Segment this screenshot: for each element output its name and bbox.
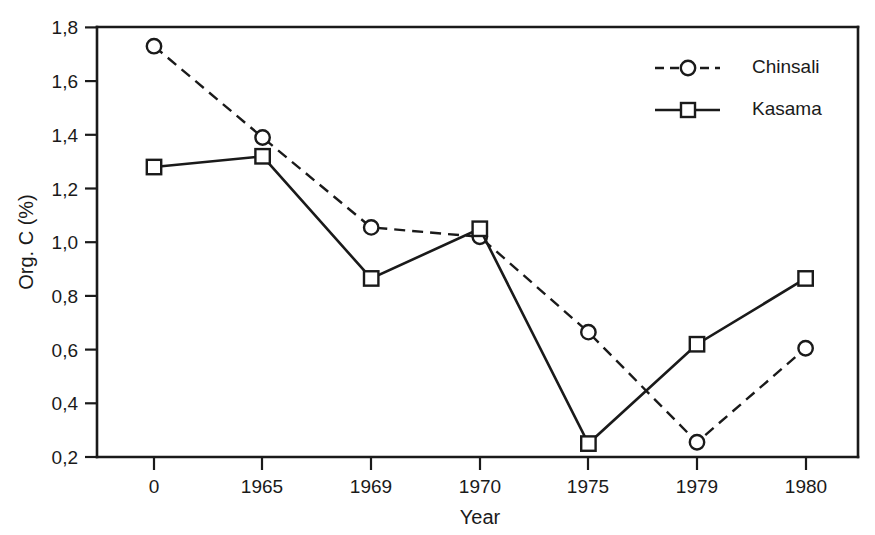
data-point-circle[interactable] <box>798 341 812 355</box>
legend-label-chinsali: Chinsali <box>752 56 820 77</box>
y-tick-group: 1,4 <box>52 125 97 146</box>
series-chinsali <box>147 39 813 449</box>
data-point-square[interactable] <box>473 222 487 236</box>
series-kasama <box>147 149 813 451</box>
data-point-square[interactable] <box>798 271 812 285</box>
y-tick-group: 1,0 <box>52 232 97 253</box>
chart-legend: Chinsali Kasama <box>612 38 858 130</box>
chart-figure: 0,2 0,4 0,6 0,8 1,0 1,2 <box>0 0 875 535</box>
data-point-square[interactable] <box>364 271 378 285</box>
data-point-circle[interactable] <box>255 130 269 144</box>
y-tick-label: 1,0 <box>52 232 78 253</box>
data-point-circle[interactable] <box>147 39 161 53</box>
y-tick-label: 1,4 <box>52 125 79 146</box>
data-point-circle[interactable] <box>581 325 595 339</box>
x-tick-group: 1979 <box>676 457 718 497</box>
data-point-square[interactable] <box>255 149 269 163</box>
x-tick-label: 1969 <box>350 476 392 497</box>
y-tick-group: 1,2 <box>52 179 97 200</box>
x-tick-label: 1970 <box>459 476 501 497</box>
x-tick-group: 1975 <box>567 457 609 497</box>
y-tick-group: 0,8 <box>52 286 97 307</box>
y-tick-group: 1,6 <box>52 71 97 92</box>
data-point-circle[interactable] <box>364 220 378 234</box>
data-point-circle[interactable] <box>690 435 704 449</box>
organic-carbon-line-chart: 0,2 0,4 0,6 0,8 1,0 1,2 <box>0 0 875 535</box>
x-tick-label: 0 <box>149 476 160 497</box>
legend-label-kasama: Kasama <box>752 98 822 119</box>
data-point-square[interactable] <box>147 160 161 174</box>
y-tick-group: 0,4 <box>52 393 97 414</box>
x-tick-group: 0 <box>149 457 160 497</box>
x-tick-group: 1965 <box>241 457 283 497</box>
y-tick-label: 0,6 <box>52 340 78 361</box>
y-tick-label: 1,2 <box>52 179 78 200</box>
data-point-square[interactable] <box>690 337 704 351</box>
x-tick-label: 1975 <box>567 476 609 497</box>
data-point-square[interactable] <box>581 436 595 450</box>
y-axis-title: Org. C (%) <box>15 194 37 290</box>
y-tick-label: 0,4 <box>52 393 79 414</box>
series-line <box>154 156 806 443</box>
x-tick-group: 1980 <box>785 457 827 497</box>
legend-entry-kasama[interactable]: Kasama <box>655 98 822 119</box>
series-layer <box>147 39 813 451</box>
y-tick-group: 0,6 <box>52 340 97 361</box>
x-tick-group: 1969 <box>350 457 392 497</box>
x-tick-label: 1980 <box>785 476 827 497</box>
y-tick-group: 0,2 <box>52 447 97 468</box>
y-tick-label: 0,8 <box>52 286 78 307</box>
x-tick-label: 1979 <box>676 476 718 497</box>
legend-marker-square <box>681 103 695 117</box>
x-axis-title: Year <box>460 506 501 528</box>
x-axis-ticks: 0 1965 1969 1970 1975 1979 <box>149 457 827 497</box>
legend-entry-chinsali[interactable]: Chinsali <box>655 56 820 77</box>
y-tick-label: 1,8 <box>52 17 78 38</box>
x-tick-group: 1970 <box>459 457 501 497</box>
y-axis-ticks: 0,2 0,4 0,6 0,8 1,0 1,2 <box>52 17 97 468</box>
y-tick-label: 1,6 <box>52 71 78 92</box>
x-tick-label: 1965 <box>241 476 283 497</box>
y-tick-label: 0,2 <box>52 447 78 468</box>
legend-marker-circle <box>681 61 695 75</box>
y-tick-group: 1,8 <box>52 17 97 38</box>
